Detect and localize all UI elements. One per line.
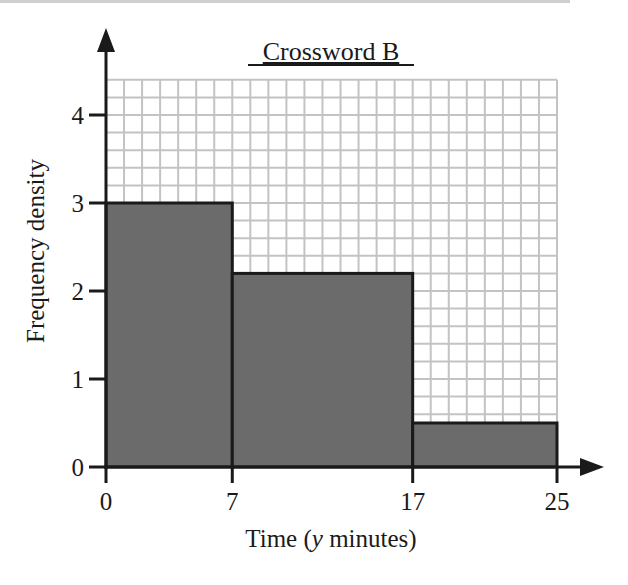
x-axis-arrow-icon	[580, 458, 604, 476]
y-tick-label: 2	[72, 278, 85, 305]
y-axis-arrow-icon	[97, 28, 115, 52]
x-tick-label: 25	[545, 488, 570, 515]
histogram-bar	[106, 203, 232, 467]
chart-title: Crossword B	[263, 37, 400, 66]
y-tick-label: 0	[72, 454, 85, 481]
x-tick-label: 7	[226, 488, 239, 515]
x-axis-label-var: y	[309, 525, 324, 552]
histogram-bar	[232, 273, 412, 467]
x-axis-label-suffix: minutes)	[323, 525, 417, 553]
x-axis-label-prefix: Time (	[245, 525, 311, 553]
y-tick-label: 4	[72, 102, 85, 129]
y-axis-label: Frequency density	[22, 159, 49, 343]
x-tick-label: 0	[100, 488, 113, 515]
x-tick-label: 17	[400, 488, 425, 515]
y-tick-label: 1	[72, 366, 85, 393]
histogram-bar	[413, 423, 557, 467]
histogram-chart: 01234071725 Crossword B Frequency densit…	[0, 0, 628, 585]
y-tick-label: 3	[72, 190, 85, 217]
x-axis-label: Time (y minutes)	[245, 525, 416, 553]
bars	[106, 203, 557, 467]
